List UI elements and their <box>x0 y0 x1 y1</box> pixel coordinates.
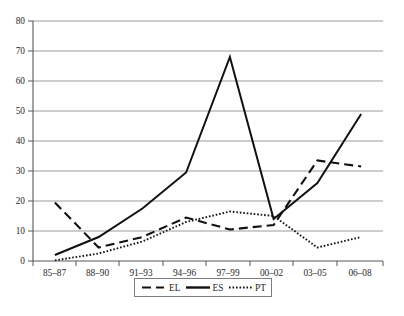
y-tick-label-30: 30 <box>16 166 26 176</box>
y-tick-label-40: 40 <box>16 136 26 146</box>
x-tick-label-6: 00–02 <box>260 268 284 278</box>
x-tick-label-5: 97–99 <box>216 268 240 278</box>
x-tick-label-3: 91–93 <box>129 268 153 278</box>
x-tick-label-4: 94–96 <box>173 268 197 278</box>
y-tick-label-60: 60 <box>16 76 26 86</box>
caption-strip <box>10 307 310 316</box>
y-tick-label-80: 80 <box>16 16 26 26</box>
y-axis-ticks <box>28 21 33 261</box>
y-tick-label-10: 10 <box>16 226 26 236</box>
line-chart: 80 70 60 50 40 30 20 10 0 85–87 88–90 9 <box>0 0 404 316</box>
x-tick-label-8: 06–08 <box>348 268 372 278</box>
legend-label-el: EL <box>169 283 181 293</box>
y-axis-tick-labels: 80 70 60 50 40 30 20 10 0 <box>16 16 26 266</box>
x-tick-label-2: 88–90 <box>86 268 110 278</box>
x-tick-label-7: 03–05 <box>303 268 327 278</box>
legend-label-pt: PT <box>255 283 266 293</box>
y-tick-label-70: 70 <box>16 46 26 56</box>
y-tick-label-50: 50 <box>16 106 26 116</box>
chart-figure: 80 70 60 50 40 30 20 10 0 85–87 88–90 9 <box>0 0 404 316</box>
chart-legend[interactable]: EL ES PT <box>135 279 272 297</box>
y-tick-label-20: 20 <box>16 196 26 206</box>
x-axis-tick-labels: 85–87 88–90 91–93 94–96 97–99 00–02 03–0… <box>43 268 372 278</box>
legend-label-es: ES <box>213 283 224 293</box>
y-tick-label-0: 0 <box>20 256 25 266</box>
x-tick-label-1: 85–87 <box>43 268 67 278</box>
x-axis-ticks <box>33 261 383 266</box>
